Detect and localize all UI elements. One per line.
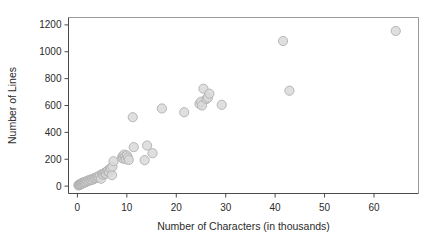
data-point	[124, 155, 133, 164]
data-point	[107, 170, 116, 179]
data-point	[217, 100, 226, 109]
y-tick-label: 0	[56, 181, 62, 192]
plot-canvas: 0102030405060 020040060080010001200 Numb…	[0, 0, 435, 237]
data-point	[278, 36, 287, 45]
data-point	[128, 113, 137, 122]
x-axis-title: Number of Characters (in thousands)	[157, 220, 330, 232]
x-tick-label: 0	[75, 202, 81, 213]
x-tick-label: 10	[121, 202, 133, 213]
data-point	[109, 157, 118, 166]
y-tick-label: 1000	[39, 46, 62, 57]
data-point	[129, 143, 138, 152]
data-point	[391, 26, 400, 35]
plot-area-background	[69, 18, 419, 194]
y-tick-label: 800	[45, 73, 62, 84]
data-point	[205, 89, 214, 98]
data-point	[140, 156, 149, 165]
y-tick-label: 600	[45, 100, 62, 111]
data-point	[148, 149, 157, 158]
y-tick-label: 400	[45, 127, 62, 138]
x-tick-label: 40	[270, 202, 282, 213]
data-point	[157, 104, 166, 113]
x-tick-label: 60	[368, 202, 380, 213]
y-tick-label: 200	[45, 154, 62, 165]
y-axis-title: Number of Lines	[6, 67, 18, 144]
data-point	[285, 86, 294, 95]
scatter-plot-figure: 0102030405060 020040060080010001200 Numb…	[0, 0, 435, 237]
data-point	[180, 108, 189, 117]
x-tick-label: 20	[171, 202, 183, 213]
x-tick-label: 30	[220, 202, 232, 213]
x-tick-label: 50	[319, 202, 331, 213]
y-tick-label: 1200	[39, 19, 62, 30]
